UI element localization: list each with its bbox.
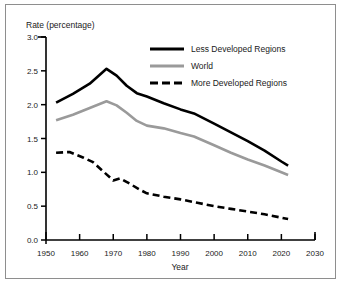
y-tick-label: 0.5 xyxy=(27,202,39,211)
x-tick-label: 1990 xyxy=(172,249,190,258)
x-tick-label: 2000 xyxy=(205,249,223,258)
y-tick-label: 2.0 xyxy=(27,101,39,110)
x-tick-label: 1960 xyxy=(71,249,89,258)
y-tick-label: 0.0 xyxy=(27,236,39,245)
x-tick-label: 1970 xyxy=(104,249,122,258)
y-tick-label: 3.0 xyxy=(27,33,39,42)
legend-label: Less Developed Regions xyxy=(191,44,286,54)
y-axis-title: Rate (percentage) xyxy=(26,20,95,30)
data-series-group xyxy=(56,69,288,219)
axis-lines xyxy=(38,37,315,240)
x-axis-title: Year xyxy=(171,262,188,272)
y-axis-ticks: 0.00.51.01.52.02.53.0 xyxy=(27,33,46,245)
legend-label: More Developed Regions xyxy=(191,78,287,88)
x-axis-ticks: 195019601970198019902000201020202030 xyxy=(37,232,324,258)
y-tick-label: 1.5 xyxy=(27,135,39,144)
x-tick-label: 1980 xyxy=(138,249,156,258)
chart-figure: 0.00.51.01.52.02.53.0 195019601970198019… xyxy=(0,0,342,285)
x-tick-label: 2010 xyxy=(239,249,257,258)
x-tick-label: 1950 xyxy=(37,249,55,258)
series-line xyxy=(56,101,288,175)
legend-label: World xyxy=(191,61,213,71)
y-tick-label: 1.0 xyxy=(27,168,39,177)
x-tick-label: 2030 xyxy=(306,249,324,258)
line-chart: 0.00.51.01.52.02.53.0 195019601970198019… xyxy=(0,0,342,285)
x-tick-label: 2020 xyxy=(272,249,290,258)
y-tick-label: 2.5 xyxy=(27,67,39,76)
chart-legend: Less Developed RegionsWorldMore Develope… xyxy=(150,44,287,88)
